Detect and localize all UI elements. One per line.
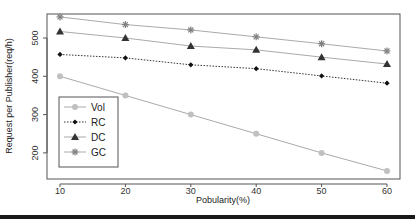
x-tick-label: 50: [317, 186, 327, 196]
legend-label: GC: [91, 147, 106, 158]
circle-marker-icon: [57, 73, 63, 79]
line-chart: 200300400500 102030405060 Request per Pu…: [0, 0, 415, 223]
star-marker-icon: [72, 149, 79, 156]
y-tick-label: 300: [30, 107, 40, 122]
y-axis: 200300400500: [30, 30, 47, 160]
y-tick-label: 200: [30, 145, 40, 160]
bottom-divider: [0, 215, 415, 219]
x-tick-label: 20: [120, 186, 130, 196]
circle-marker-icon: [319, 150, 325, 156]
star-marker-icon: [318, 40, 325, 47]
star-marker-icon: [384, 48, 391, 55]
diamond-marker-icon: [123, 55, 128, 60]
y-tick-label: 400: [30, 69, 40, 84]
star-marker-icon: [57, 13, 64, 20]
circle-marker-icon: [122, 92, 128, 98]
diamond-marker-icon: [57, 52, 62, 57]
circle-marker-icon: [253, 131, 259, 137]
diamond-marker-icon: [319, 73, 324, 78]
legend: VolRCDCGC: [59, 97, 118, 167]
x-tick-label: 30: [186, 186, 196, 196]
diamond-marker-icon: [384, 81, 389, 86]
circle-marker-icon: [72, 104, 78, 110]
legend-label: RC: [91, 117, 105, 128]
circle-marker-icon: [384, 168, 390, 174]
x-axis-label: Pobularity(%): [196, 195, 250, 205]
triangle-marker-icon: [56, 27, 64, 34]
legend-label: DC: [91, 132, 105, 143]
star-marker-icon: [253, 33, 260, 40]
star-marker-icon: [187, 26, 194, 33]
legend-label: Vol: [91, 102, 105, 113]
circle-marker-icon: [188, 112, 194, 118]
diamond-marker-icon: [254, 66, 259, 71]
series-rc: [57, 52, 389, 86]
x-tick-label: 40: [251, 186, 261, 196]
y-tick-label: 500: [30, 30, 40, 45]
x-tick-label: 60: [382, 186, 392, 196]
y-axis-label: Request per Publisher(req/h): [4, 38, 14, 154]
x-tick-label: 10: [55, 186, 65, 196]
diamond-marker-icon: [188, 62, 193, 67]
star-marker-icon: [122, 21, 129, 28]
